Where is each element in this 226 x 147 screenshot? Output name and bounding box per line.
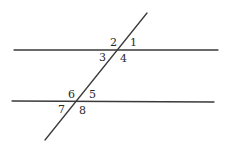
parallel-lines-diagram: 1 2 3 4 5 6 7 8 <box>0 0 226 147</box>
angle-label-7: 7 <box>58 103 65 116</box>
angle-label-8: 8 <box>79 104 86 117</box>
bottom-parallel-line <box>12 101 214 102</box>
angle-label-4: 4 <box>120 52 127 65</box>
angle-label-1: 1 <box>130 36 137 49</box>
angle-label-6: 6 <box>68 88 75 101</box>
angle-label-5: 5 <box>89 88 96 101</box>
angle-label-2: 2 <box>110 36 117 49</box>
angle-label-3: 3 <box>99 51 106 64</box>
transversal-line <box>45 13 147 140</box>
